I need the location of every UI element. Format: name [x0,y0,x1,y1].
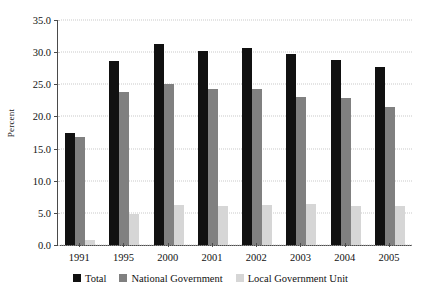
legend-item-local-government-unit[interactable]: Local Government Unit [236,273,348,284]
y-tick-label: 25.0 [33,79,51,90]
bar-group [58,20,102,245]
x-tick-mark [168,243,169,247]
x-tick: 1991 [57,247,101,265]
bars-layer [58,20,412,245]
x-axis-tick-labels: 19911995200020012002200320042005 [57,247,411,267]
x-tick: 2003 [278,247,322,265]
bar-group [235,20,279,245]
chart-legend: TotalNational GovernmentLocal Government… [0,268,421,288]
bar-local-government-unit-2000 [174,205,184,245]
legend-swatch-icon [73,274,81,282]
y-tick-label: 35.0 [33,15,51,26]
x-tick-label: 2003 [290,249,311,263]
bar-national-government-2003 [296,97,306,246]
x-tick: 2000 [146,247,190,265]
bar-national-government-2002 [252,89,262,245]
x-tick-mark [389,243,390,247]
x-tick: 1995 [101,247,145,265]
x-tick-label: 1991 [69,249,90,263]
x-tick-label: 1995 [113,249,134,263]
bar-national-government-2004 [341,98,351,245]
y-axis-title-label: Percent [6,108,16,136]
plot-area [57,20,412,246]
y-axis-tick-labels: 0.05.010.015.020.025.030.035.0 [18,0,54,245]
y-tick-label: 20.0 [33,111,51,122]
bar-group [368,20,412,245]
y-tick-label: 30.0 [33,47,51,58]
legend-item-total[interactable]: Total [73,273,106,284]
x-tick: 2004 [323,247,367,265]
bar-local-government-unit-1995 [129,214,139,246]
y-tick-label: 15.0 [33,143,51,154]
legend-swatch-icon [236,274,244,282]
x-tick: 2002 [234,247,278,265]
bar-local-government-unit-2002 [262,205,272,246]
bar-local-government-unit-2001 [218,206,228,245]
x-tick-label: 2000 [157,249,178,263]
legend-label: National Government [131,273,222,284]
bar-national-government-2000 [164,84,174,245]
legend-label: Local Government Unit [248,273,348,284]
x-tick-mark [212,243,213,247]
x-tick-mark [123,243,124,247]
bar-national-government-2001 [208,89,218,245]
x-tick: 2001 [190,247,234,265]
bar-national-government-2005 [385,107,395,245]
bar-group [191,20,235,245]
bar-local-government-unit-2005 [395,206,405,245]
bar-total-2002 [242,48,252,245]
bar-national-government-1991 [75,137,85,245]
bar-total-1995 [109,61,119,246]
bar-total-2003 [286,54,296,245]
bar-group [147,20,191,245]
bar-total-2004 [331,60,341,245]
x-tick-label: 2002 [246,249,267,263]
legend-item-national-government[interactable]: National Government [119,273,222,284]
bar-total-2005 [375,67,385,245]
legend-label: Total [85,273,106,284]
bar-national-government-1995 [119,92,129,245]
bar-total-2001 [198,51,208,245]
legend-swatch-icon [119,274,127,282]
bar-local-government-unit-2004 [351,206,361,245]
x-tick-mark [79,243,80,247]
x-tick-label: 2005 [378,249,399,263]
bar-total-2000 [154,44,164,245]
x-tick-mark [256,243,257,247]
x-tick-mark [300,243,301,247]
bar-local-government-unit-1991 [85,240,95,245]
y-tick-label: 0.0 [38,240,51,251]
bar-group [324,20,368,245]
bar-group [279,20,323,245]
y-tick-mark [54,245,58,246]
bar-total-1991 [65,133,75,246]
bar-local-government-unit-2003 [306,204,316,245]
x-tick-mark [345,243,346,247]
bar-chart: Percent 0.05.010.015.020.025.030.035.0 1… [0,0,421,291]
y-tick-label: 10.0 [33,175,51,186]
x-tick-label: 2004 [334,249,355,263]
y-tick-label: 5.0 [38,207,51,218]
x-tick: 2005 [367,247,411,265]
x-tick-label: 2001 [201,249,222,263]
bar-group [102,20,146,245]
